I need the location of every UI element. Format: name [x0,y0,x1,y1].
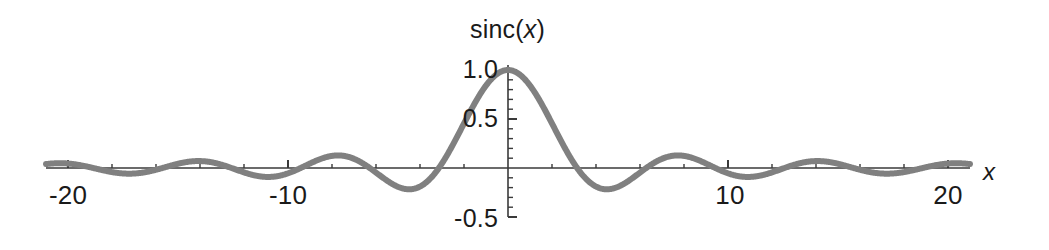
chart-title-paren-open: ( [515,15,524,43]
y-tick-label-neg0.5: -0.5 [424,206,498,231]
y-tick-label-1.0: 1.0 [434,57,498,82]
chart-title-variable: x [524,15,537,43]
y-tick-label-0.5: 0.5 [434,106,498,131]
chart-title: sinc(x) [470,17,545,42]
chart-title-paren-close: ) [537,15,546,43]
sinc-function-plot: sinc(x) x 1.0 0.5 -0.5 -20 -10 10 20 [0,0,1049,250]
x-tick-label-10: 10 [690,182,770,208]
x-tick-label-neg20: -20 [28,182,108,208]
x-axis-title: x [983,160,995,184]
x-tick-label-20: 20 [908,182,988,208]
chart-title-text: sinc [470,15,515,43]
x-tick-label-neg10: -10 [248,182,328,208]
